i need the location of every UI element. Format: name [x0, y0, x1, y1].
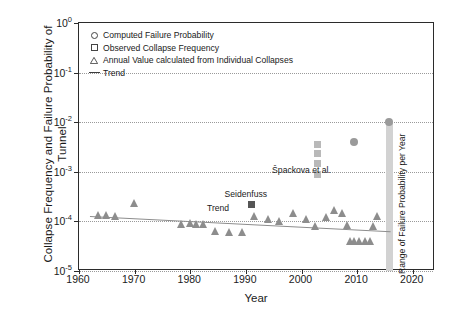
chart-figure: Collapse Frequency and Failure Probabili…: [0, 0, 452, 313]
x-axis-label: Year: [78, 292, 434, 304]
data-point-triangle: [102, 211, 110, 219]
data-point-triangle: [111, 212, 119, 220]
x-tick-label: 2000: [279, 273, 323, 285]
y-tick-label: 100: [0, 15, 72, 29]
data-point-triangle: [373, 212, 381, 220]
data-point-triangle: [264, 215, 272, 223]
data-point-triangle: [211, 227, 219, 235]
x-tick-label: 1990: [223, 273, 267, 285]
x-tick-label: 1970: [112, 273, 156, 285]
x-tick-label: 1980: [167, 273, 211, 285]
x-tick-mark: [79, 269, 80, 274]
triangle-open-icon: [87, 57, 101, 64]
x-tick-label: 2010: [334, 273, 378, 285]
data-point-triangle: [177, 220, 185, 228]
gridline: [79, 221, 433, 222]
x-tick-mark: [357, 269, 358, 274]
data-point-triangle: [338, 209, 346, 217]
square-open-icon: [87, 44, 101, 51]
legend-label: Observed Collapse Frequency: [101, 43, 219, 53]
y-tick-label: 10-1: [0, 65, 72, 79]
line-icon: [87, 72, 101, 73]
legend-label: Annual Value calculated from Individual …: [101, 55, 293, 65]
y-tick-mark: [74, 23, 79, 24]
data-point-triangle: [289, 209, 297, 217]
x-tick-mark: [246, 269, 247, 274]
y-tick-mark: [74, 122, 79, 123]
y-tick-label: 10-3: [0, 164, 72, 178]
data-point-triangle: [275, 217, 283, 225]
data-point-triangle: [369, 222, 377, 230]
x-tick-mark: [302, 269, 303, 274]
x-tick-label: 2020: [390, 273, 434, 285]
data-point-triangle: [311, 222, 319, 230]
y-tick-label: 10-4: [0, 213, 72, 227]
legend-label: Trend: [101, 68, 125, 78]
data-point-circle: [350, 138, 358, 146]
x-tick-mark: [190, 269, 191, 274]
legend-item-annual-value: Annual Value calculated from Individual …: [87, 54, 293, 67]
annotation-label: Trend: [207, 203, 229, 213]
data-point-triangle: [343, 221, 351, 229]
y-tick-mark: [74, 73, 79, 74]
band-label: Range of Failure Probability per Year: [397, 133, 407, 273]
annotation-label: Špackova et al.: [272, 165, 331, 175]
y-axis-label: Collapse Frequency and Failure Probabili…: [41, 19, 69, 269]
data-point-triangle: [322, 213, 330, 221]
x-tick-label: 1960: [56, 273, 100, 285]
legend-item-computed-failure-probability: Computed Failure Probability: [87, 29, 293, 42]
gridline: [79, 172, 433, 173]
data-point-triangle: [302, 215, 310, 223]
x-tick-mark: [413, 269, 414, 274]
data-point-square: [314, 141, 321, 148]
data-point-triangle: [199, 220, 207, 228]
data-point-triangle: [366, 237, 374, 245]
gridline: [79, 122, 433, 123]
y-tick-mark: [74, 172, 79, 173]
data-point-triangle: [250, 212, 258, 220]
gridline: [79, 271, 433, 272]
data-point-triangle: [238, 228, 246, 236]
data-point-triangle: [94, 211, 102, 219]
legend-item-trend: Trend: [87, 67, 293, 80]
data-point-square: [314, 150, 321, 157]
legend-label: Computed Failure Probability: [101, 30, 214, 40]
data-point-triangle: [130, 199, 138, 207]
legend-item-observed-collapse-frequency: Observed Collapse Frequency: [87, 42, 293, 55]
circle-open-icon: [87, 32, 101, 39]
x-tick-mark: [135, 269, 136, 274]
y-tick-label: 10-2: [0, 114, 72, 128]
data-point-triangle: [225, 228, 233, 236]
annotation-label: Seidenfuss: [225, 189, 268, 199]
legend: Computed Failure Probability Observed Co…: [87, 29, 293, 79]
band-rect: [386, 122, 393, 271]
y-tick-mark: [74, 221, 79, 222]
plot-area: Špackova et al.SeidenfussTrendRange of F…: [78, 22, 434, 270]
data-point-square-filled: [248, 201, 255, 208]
